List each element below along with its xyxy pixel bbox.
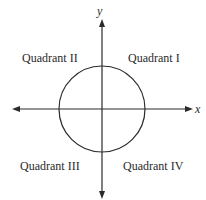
y-axis-label: y [96, 4, 103, 18]
quadrant-label-i: Quadrant I [128, 51, 180, 65]
quadrant-label-iv: Quadrant IV [123, 159, 184, 173]
quadrant-label-ii: Quadrant II [22, 51, 78, 65]
x-axis: x [12, 102, 201, 116]
coordinate-plane-diagram: x y Quadrant II Quadrant I Quadrant III … [0, 0, 206, 200]
quadrant-label-iii: Quadrant III [20, 159, 80, 173]
arrow-down-icon [99, 191, 105, 199]
arrow-up-icon [99, 19, 105, 27]
x-axis-label: x [194, 102, 201, 116]
arrow-right-icon [185, 106, 193, 112]
y-axis: y [96, 4, 105, 199]
arrow-left-icon [12, 106, 20, 112]
